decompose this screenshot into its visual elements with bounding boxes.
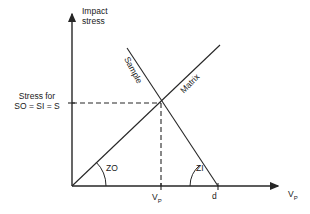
stress-level-label: Stress forSO = SI = S [4,91,70,111]
x-tick-label-vp-sub: P [158,198,162,204]
y-axis-label: Impactstress [82,6,108,26]
stress-level-line1: Stress for [19,91,55,101]
sample-line [127,48,218,186]
x-axis-label: VP [288,189,298,203]
angle-label-zi: ZI [196,163,204,173]
y-axis-label-line2: stress [82,16,105,26]
stress-level-line2: SO = SI = S [14,101,59,111]
impact-stress-diagram: Impactstress Stress forSO = SI = S Sampl… [0,0,310,214]
x-axis-label-sub: P [294,195,298,201]
angle-arc-zo [96,162,106,186]
angle-label-zo: ZO [106,163,118,173]
x-tick-label-vp: VP [152,192,162,206]
x-tick-label-d: d [212,191,217,201]
y-axis-label-line1: Impact [82,6,108,16]
